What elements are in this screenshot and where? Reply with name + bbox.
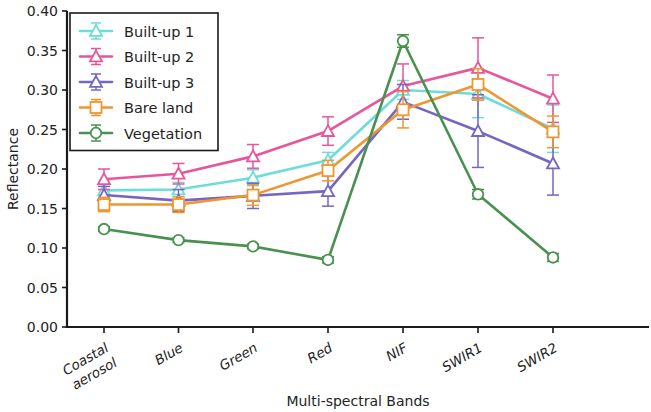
data-point-marker	[247, 190, 258, 201]
x-tick-label-group: SWIR2	[514, 339, 560, 375]
x-tick-label: Green	[216, 339, 260, 373]
x-axis-title: Multi-spectral Bands	[286, 393, 429, 409]
y-tick-label: 0.10	[27, 240, 58, 256]
data-point-marker	[173, 235, 184, 246]
y-axis-title: Reflectance	[5, 128, 21, 210]
legend-label: Built-up 1	[124, 24, 194, 40]
reflectance-line-chart: 0.000.050.100.150.200.250.300.350.40Coas…	[0, 0, 651, 412]
data-point-marker	[548, 252, 559, 263]
y-tick-label: 0.00	[27, 319, 58, 335]
y-tick-label: 0.05	[27, 280, 58, 296]
data-point-marker	[547, 126, 558, 137]
legend-marker-square-icon	[90, 102, 101, 113]
legend-label: Bare land	[124, 100, 193, 116]
x-tick-label-group: Red	[304, 339, 335, 366]
y-tick-label: 0.20	[27, 161, 58, 177]
x-tick-label-group: SWIR1	[439, 339, 485, 375]
legend-label: Built-up 2	[124, 49, 194, 65]
legend-marker-circle-icon	[91, 128, 102, 139]
data-point-marker	[322, 125, 334, 136]
legend-label: Vegetation	[124, 126, 202, 142]
x-tick-label: Red	[304, 339, 335, 366]
data-point-marker	[473, 189, 484, 200]
data-point-marker	[99, 224, 110, 235]
x-tick-label-group: Green	[216, 339, 260, 373]
y-tick-label: 0.35	[27, 43, 58, 59]
data-point-marker	[98, 199, 109, 210]
legend-label: Built-up 3	[124, 75, 194, 91]
y-tick-label: 0.40	[27, 3, 58, 19]
data-point-marker	[397, 104, 408, 115]
y-tick-label: 0.25	[27, 122, 58, 138]
chart-page: 0.000.050.100.150.200.250.300.350.40Coas…	[0, 0, 651, 412]
legend: Built-up 1Built-up 2Built-up 3Bare landV…	[70, 13, 218, 151]
x-tick-label: NIF	[383, 339, 410, 364]
y-tick-label: 0.30	[27, 82, 58, 98]
data-point-marker	[398, 36, 409, 47]
x-tick-label: SWIR2	[514, 339, 560, 375]
data-point-marker	[322, 165, 333, 176]
data-point-marker	[472, 79, 483, 90]
data-point-marker	[248, 241, 259, 252]
x-tick-label-group: Coastalaerosol	[59, 339, 119, 393]
x-tick-label-group: NIF	[383, 339, 410, 364]
x-tick-label: SWIR1	[439, 339, 485, 375]
x-tick-label-group: Blue	[152, 339, 186, 368]
data-point-marker	[173, 199, 184, 210]
data-point-marker	[323, 255, 334, 266]
x-tick-label: Blue	[152, 339, 186, 368]
y-tick-label: 0.15	[27, 201, 58, 217]
